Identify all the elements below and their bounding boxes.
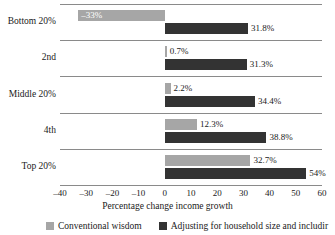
bar-chart: Bottom 20%2ndMiddle 20%4thTop 20% –33%31… [0, 0, 335, 235]
row-separator [60, 113, 322, 114]
x-tick-label: 0 [163, 187, 168, 199]
category-label: 2nd [0, 53, 56, 63]
bar-value-label: 31.3% [250, 59, 273, 70]
x-tick-label: 30 [239, 187, 248, 199]
x-tick-label: 50 [291, 187, 300, 199]
bar [165, 23, 248, 34]
bar-value-label: 34.4% [258, 96, 281, 107]
bar-value-label: 0.7% [170, 46, 189, 57]
legend-label: Adjusting for household size and includi… [171, 221, 329, 231]
category-label: Bottom 20% [0, 17, 56, 27]
x-axis-line [60, 185, 322, 186]
row-separator [60, 149, 322, 150]
bar-value-label: 32.7% [253, 155, 276, 166]
x-tick-label: –40 [53, 187, 67, 199]
x-axis-tick-labels: –40–30–20–100102030405060 [60, 187, 322, 199]
bar-value-label: –33% [81, 10, 102, 21]
bar [165, 59, 247, 70]
x-tick-label: 40 [265, 187, 274, 199]
bar-value-label: 31.8% [251, 23, 274, 34]
category-label: 4th [0, 126, 56, 136]
bar-value-label: 12.3% [200, 119, 223, 130]
bar-value-label: 54% [309, 168, 326, 179]
bar [165, 155, 251, 166]
category-label: Top 20% [0, 162, 56, 172]
bar-value-label: 2.2% [174, 83, 193, 94]
row-separator [60, 76, 322, 77]
legend-label: Conventional wisdom [58, 221, 142, 231]
bar [165, 132, 267, 143]
bar [165, 83, 171, 94]
category-axis: Bottom 20%2ndMiddle 20%4thTop 20% [0, 4, 56, 185]
bar [165, 119, 197, 130]
category-label: Middle 20% [0, 90, 56, 100]
x-tick-label: 10 [187, 187, 196, 199]
legend-item-conventional-wisdom: Conventional wisdom [46, 221, 142, 231]
x-axis-title: Percentage change income growth [0, 200, 335, 212]
chart-legend: Conventional wisdom Adjusting for househ… [0, 219, 335, 233]
bar [165, 96, 255, 107]
x-tick-label: 20 [213, 187, 222, 199]
row-separator [60, 40, 322, 41]
row-separator [60, 4, 322, 5]
legend-item-adjusted: Adjusting for household size and includi… [159, 221, 329, 231]
bar-value-label: 38.8% [269, 132, 292, 143]
x-tick-label: 60 [318, 187, 327, 199]
plot-area: –33%31.8%0.7%31.3%2.2%34.4%12.3%38.8%32.… [60, 4, 322, 185]
x-tick-label: –30 [79, 187, 93, 199]
legend-swatch-icon [46, 222, 54, 230]
x-tick-label: –10 [132, 187, 146, 199]
bar [165, 46, 167, 57]
legend-swatch-icon [159, 222, 167, 230]
bar [165, 168, 306, 179]
x-tick-label: –20 [106, 187, 120, 199]
